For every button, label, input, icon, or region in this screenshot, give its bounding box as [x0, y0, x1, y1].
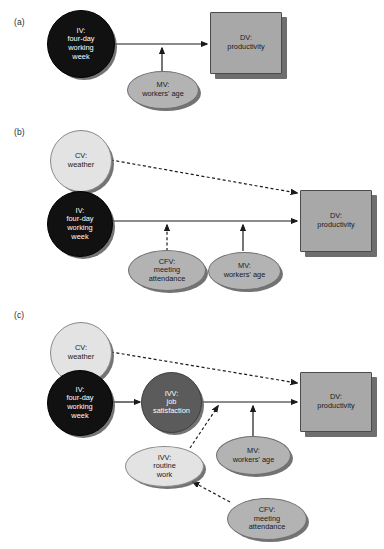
variable-relationship-figure: (a) IV: four-day working week DV: produc…	[0, 0, 384, 549]
node-b-cfv-label: CFV: meeting attendance	[147, 258, 188, 284]
node-c-iv-label: IV: four-day working week	[64, 386, 95, 420]
node-b-dv-label: DV: productivity	[315, 212, 356, 229]
node-b-mv-label: MV: workers' age	[222, 262, 268, 279]
panel-label-b: (b)	[14, 127, 25, 137]
node-c-ivv-routine-label: IVV: routine work	[151, 454, 178, 480]
node-c-mv-label: MV: workers' age	[231, 447, 277, 464]
node-a-dv-label: DV: productivity	[225, 34, 266, 51]
node-c-ivv-job-label: IVV: job satisfaction	[151, 390, 192, 416]
edge-b-cv-to-dv	[111, 160, 297, 193]
panel-label-a: (a)	[14, 17, 25, 27]
edge-c-cv-to-dv	[111, 352, 297, 383]
node-c-dv-label: DV: productivity	[315, 393, 356, 410]
node-c-ivv-job: IVV: job satisfaction	[141, 372, 202, 433]
node-c-cfv-label: CFV: meeting attendance	[247, 506, 288, 532]
node-c-cfv: CFV: meeting attendance	[227, 498, 307, 540]
node-b-mv: MV: workers' age	[208, 252, 281, 290]
node-c-cv-label: CV: weather	[66, 344, 96, 361]
node-b-cfv: CFV: meeting attendance	[128, 250, 206, 291]
node-c-iv: IV: four-day working week	[47, 370, 113, 436]
node-b-dv: DV: productivity	[300, 190, 372, 252]
node-b-cv: CV: weather	[50, 130, 112, 192]
panel-label-c: (c)	[14, 310, 24, 320]
node-b-iv: IV: four-day working week	[47, 191, 113, 257]
node-b-iv-label: IV: four-day working week	[64, 207, 95, 241]
node-c-dv: DV: productivity	[300, 372, 372, 432]
node-a-dv: DV: productivity	[210, 12, 282, 74]
node-a-mv: MV: workers' age	[127, 71, 199, 109]
node-a-iv: IV: four-day working week	[47, 10, 115, 78]
node-b-cv-label: CV: weather	[66, 152, 96, 169]
node-c-mv: MV: workers' age	[216, 436, 291, 475]
node-a-mv-label: MV: workers' age	[140, 81, 186, 98]
node-c-ivv-routine: IVV: routine work	[125, 446, 204, 487]
node-a-iv-label: IV: four-day working week	[65, 27, 96, 61]
edge-c-cfv-to-ivvroutine	[193, 482, 230, 502]
